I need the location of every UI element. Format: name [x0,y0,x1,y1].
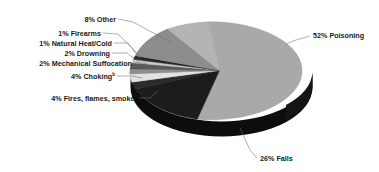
label-drowning: 2% Drowning [64,49,110,58]
pie-chart-svg: 8% Other 1% Firearms 1% Natural Heat/Col… [0,0,379,172]
label-mechanical-suffocation: 2% Mechanical Suffocation [39,59,132,68]
label-other: 8% Other [84,15,116,24]
leader-line-poisoning [286,36,310,44]
label-falls: 26% Falls [260,154,293,163]
label-choking: 4% Choking [71,72,112,81]
label-natural-heat-cold: 1% Natural Heat/Cold [39,39,112,48]
label-firearms: 1% Firearms [58,29,101,38]
pie-top-face [130,22,302,120]
label-poisoning: 52% Poisoning [313,31,364,40]
label-fires-footnote: a [134,94,137,99]
label-choking-footnote: b [112,72,115,77]
label-fires: 4% Fires, flames, smoke [51,94,134,103]
label-fires-group: 4% Fires, flames, smokea [51,94,137,103]
pie-chart-figure: 8% Other 1% Firearms 1% Natural Heat/Col… [0,0,379,172]
label-choking-group: 4% Chokingb [71,72,115,81]
